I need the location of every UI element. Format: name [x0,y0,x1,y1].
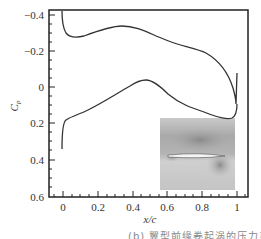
svg-text:0.6: 0.6 [160,201,174,213]
svg-text:0.2: 0.2 [30,117,44,129]
svg-text:0.2: 0.2 [91,201,105,213]
upper-surface-curve [62,11,237,104]
figure-caption: (b) 翼型前缘卷起涡的压力系数分布 [128,228,261,239]
cp-distribution-chart: −0.4 −0.2 0 0.2 0.4 0.6 0 0.2 0.4 0.6 0.… [0,0,261,239]
x-axis-label: x/c [143,213,157,225]
svg-text:Cp: Cp [8,100,22,111]
y-axis-label: Cp [8,100,22,111]
svg-text:1: 1 [234,201,240,213]
y-axis-tick-labels: −0.4 −0.2 0 0.2 0.4 0.6 [24,9,44,203]
y-axis-ticks [49,15,55,187]
x-axis-ticks [54,191,245,197]
svg-text:0.6: 0.6 [30,191,44,203]
svg-text:0.4: 0.4 [30,154,44,166]
svg-text:0: 0 [39,81,45,93]
svg-text:0: 0 [60,201,66,213]
svg-text:0.8: 0.8 [195,201,209,213]
svg-text:0.4: 0.4 [126,201,140,213]
svg-text:−0.4: −0.4 [24,9,44,21]
svg-text:−0.2: −0.2 [24,45,44,57]
x-axis-tick-labels: 0 0.2 0.4 0.6 0.8 1 [60,201,240,213]
flow-field-inset [160,118,235,190]
